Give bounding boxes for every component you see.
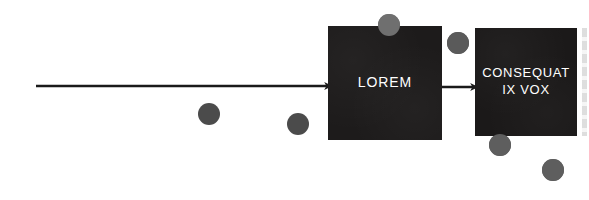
decorative-circle — [542, 159, 564, 181]
node-lorem-label: LOREM — [358, 74, 412, 92]
diagram-canvas: LOREM CONSEQUAT IX VOX — [0, 0, 589, 200]
node-consequat[interactable]: CONSEQUAT IX VOX — [475, 28, 577, 136]
decorative-circle — [287, 113, 309, 135]
cropped-edge-strip — [582, 28, 587, 136]
node-consequat-label: CONSEQUAT IX VOX — [482, 65, 570, 98]
decorative-circle — [198, 103, 220, 125]
node-lorem[interactable]: LOREM — [328, 26, 442, 140]
decorative-circle — [447, 32, 469, 54]
decorative-circle — [489, 134, 511, 156]
